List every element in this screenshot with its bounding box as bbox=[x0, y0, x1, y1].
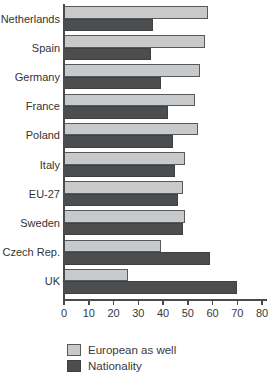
bar-european-as-well-uk bbox=[64, 269, 128, 282]
bar-european-as-well-france bbox=[64, 94, 195, 107]
bar-european-as-well-italy bbox=[64, 152, 185, 165]
x-tick-label-60: 60 bbox=[200, 307, 226, 319]
x-tick-label-80: 80 bbox=[249, 307, 275, 319]
category-label-uk: UK bbox=[0, 274, 60, 288]
x-tick-mark-20 bbox=[113, 301, 115, 305]
x-tick-label-70: 70 bbox=[224, 307, 250, 319]
bar-nationality-poland bbox=[64, 135, 173, 148]
y-axis-line bbox=[63, 4, 65, 301]
category-label-czech-rep: Czech Rep. bbox=[0, 245, 60, 259]
x-tick-mark-10 bbox=[88, 301, 90, 305]
bar-nationality-france bbox=[64, 106, 168, 119]
category-label-eu-27: EU-27 bbox=[0, 187, 60, 201]
x-tick-label-30: 30 bbox=[125, 307, 151, 319]
bar-european-as-well-eu-27 bbox=[64, 181, 183, 194]
x-tick-label-0: 0 bbox=[51, 307, 77, 319]
x-tick-label-10: 10 bbox=[76, 307, 102, 319]
category-label-sweden: Sweden bbox=[0, 216, 60, 230]
bar-european-as-well-netherlands bbox=[64, 6, 208, 19]
bar-nationality-italy bbox=[64, 165, 175, 178]
x-tick-mark-30 bbox=[138, 301, 140, 305]
category-label-france: France bbox=[0, 99, 60, 113]
x-tick-mark-80 bbox=[261, 301, 263, 305]
x-tick-mark-0 bbox=[63, 301, 65, 305]
bar-nationality-sweden bbox=[64, 223, 183, 236]
bar-european-as-well-poland bbox=[64, 123, 198, 136]
plot-area: NetherlandsSpainGermanyFrancePolandItaly… bbox=[0, 0, 275, 388]
category-label-poland: Poland bbox=[0, 128, 60, 142]
x-tick-mark-40 bbox=[162, 301, 164, 305]
x-tick-mark-70 bbox=[237, 301, 239, 305]
category-label-netherlands: Netherlands bbox=[0, 12, 60, 26]
x-tick-label-20: 20 bbox=[101, 307, 127, 319]
legend-label-nationality: Nationality bbox=[88, 360, 142, 372]
bar-european-as-well-spain bbox=[64, 35, 205, 48]
bar-nationality-spain bbox=[64, 48, 151, 61]
bar-nationality-germany bbox=[64, 77, 161, 90]
x-tick-mark-50 bbox=[187, 301, 189, 305]
legend-label-european-as-well: European as well bbox=[88, 344, 176, 356]
legend-swatch-nationality bbox=[67, 360, 81, 372]
category-label-spain: Spain bbox=[0, 41, 60, 55]
bar-chart-figure: NetherlandsSpainGermanyFrancePolandItaly… bbox=[0, 0, 275, 388]
bar-nationality-eu-27 bbox=[64, 194, 178, 207]
x-tick-label-50: 50 bbox=[175, 307, 201, 319]
legend-swatch-european-as-well bbox=[67, 344, 81, 356]
bar-european-as-well-sweden bbox=[64, 210, 185, 223]
bar-nationality-uk bbox=[64, 281, 237, 294]
category-label-italy: Italy bbox=[0, 158, 60, 172]
legend: European as wellNationality bbox=[67, 344, 176, 376]
category-label-germany: Germany bbox=[0, 70, 60, 84]
x-tick-label-40: 40 bbox=[150, 307, 176, 319]
bar-nationality-netherlands bbox=[64, 19, 153, 32]
legend-item-european-as-well: European as well bbox=[67, 344, 176, 356]
bar-nationality-czech-rep bbox=[64, 252, 210, 265]
legend-item-nationality: Nationality bbox=[67, 360, 176, 372]
bar-european-as-well-czech-rep bbox=[64, 240, 161, 253]
x-tick-mark-60 bbox=[212, 301, 214, 305]
bar-european-as-well-germany bbox=[64, 64, 200, 77]
